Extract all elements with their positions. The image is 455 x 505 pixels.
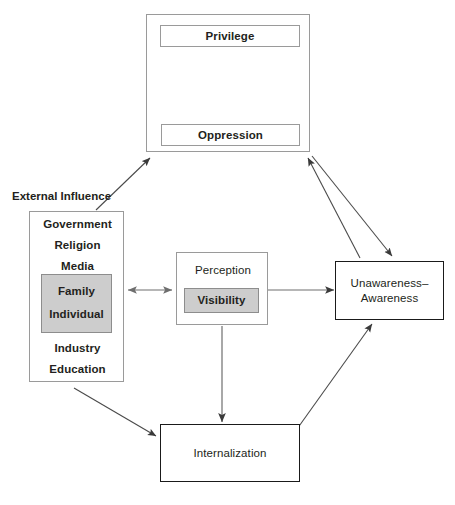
unawareness-awareness-line1: Unawareness– — [351, 276, 429, 290]
external-influence-items-bottom: Industry Education — [30, 342, 125, 384]
ei-item-media: Media — [30, 260, 125, 272]
visibility-box[interactable]: Visibility — [184, 288, 259, 313]
internalization-box[interactable]: Internalization — [160, 424, 300, 482]
ei-item-industry: Industry — [30, 342, 125, 354]
unawareness-awareness-box[interactable]: Unawareness– Awareness — [335, 261, 444, 320]
unawareness-awareness-line2: Awareness — [351, 291, 429, 305]
oppression-label: Oppression — [198, 128, 263, 142]
privilege-box[interactable]: Privilege — [160, 25, 300, 47]
visibility-label: Visibility — [197, 293, 245, 307]
connector-ei-to-internalization — [74, 388, 156, 436]
ei-item-individual: Individual — [42, 308, 111, 320]
external-influence-label: External Influence — [12, 190, 111, 202]
ei-item-government: Government — [30, 218, 125, 230]
privilege-label: Privilege — [206, 29, 255, 43]
external-influence-items-core: Family Individual — [42, 285, 111, 331]
ei-item-religion: Religion — [30, 239, 125, 251]
perception-label: Perception — [177, 263, 269, 277]
oppression-box[interactable]: Oppression — [161, 124, 300, 146]
connector-internalization-to-unawareness — [292, 324, 372, 436]
ei-item-education: Education — [30, 363, 125, 375]
ei-item-family: Family — [42, 285, 111, 297]
connector-po-to-unawareness — [312, 156, 392, 256]
external-influence-items-top: Government Religion Media — [30, 218, 125, 281]
unawareness-awareness-label: Unawareness– Awareness — [351, 276, 429, 305]
connector-ei-to-po — [96, 158, 150, 210]
external-influence-core-box[interactable]: Family Individual — [41, 274, 112, 333]
connector-unawareness-to-po — [308, 158, 360, 258]
diagram-canvas: Privilege Oppression External Influence … — [0, 0, 455, 505]
internalization-label: Internalization — [193, 446, 266, 460]
